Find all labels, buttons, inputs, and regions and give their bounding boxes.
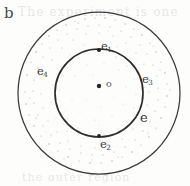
- point-origin: [97, 84, 101, 88]
- panel-letter-b: b: [4, 6, 14, 21]
- label-e3: e3: [142, 74, 153, 86]
- label-e2-subscript: 2: [106, 143, 111, 152]
- label-origin-base: o: [106, 78, 112, 89]
- label-e-base: e: [140, 110, 148, 125]
- label-e4-subscript: 4: [43, 70, 48, 79]
- label-e4: e4: [37, 66, 48, 78]
- label-e1: e1: [101, 41, 112, 53]
- label-e: e: [140, 111, 148, 124]
- label-e3-subscript: 3: [148, 78, 153, 87]
- label-e2: e2: [100, 139, 111, 151]
- diagram-canvas: [0, 0, 190, 186]
- label-e1-subscript: 1: [107, 45, 112, 54]
- label-origin: o: [106, 79, 112, 89]
- figure-panel-b: The experiment is one the outer region: [0, 0, 190, 186]
- annulus-stipple: [24, 17, 170, 163]
